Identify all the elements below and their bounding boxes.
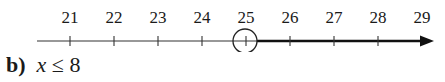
tick-label: 28	[370, 8, 387, 27]
tick-label: 26	[282, 8, 299, 27]
relation: ≤	[52, 52, 64, 77]
number-line: 212223242526272829	[0, 0, 445, 52]
arrow-head-icon	[420, 36, 434, 47]
value: 8	[69, 52, 80, 77]
part-letter: b)	[6, 52, 26, 77]
variable: x	[37, 52, 47, 77]
tick-label: 25	[238, 8, 255, 27]
tick-label: 23	[150, 8, 167, 27]
tick-labels: 212223242526272829	[62, 8, 431, 27]
tick-label: 24	[194, 8, 212, 27]
tick-label: 27	[326, 8, 344, 27]
part-b-label: b) x ≤ 8	[6, 52, 80, 78]
tick-label: 21	[62, 8, 79, 27]
tick-label: 22	[106, 8, 123, 27]
tick-label: 29	[414, 8, 431, 27]
